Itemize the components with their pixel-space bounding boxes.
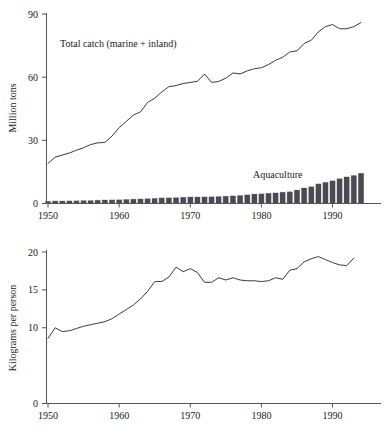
aquaculture-bar (344, 177, 350, 204)
aquaculture-bar (137, 199, 143, 204)
aquaculture-bar (301, 188, 307, 204)
x-tick-label: 1990 (323, 410, 343, 421)
annotation-total-catch: Total catch (marine + inland) (60, 38, 177, 50)
y-tick-label: 30 (28, 135, 38, 146)
top-y-axis-title: Million tons (7, 83, 18, 132)
aquaculture-bar (201, 197, 207, 204)
aquaculture-bar (251, 194, 257, 204)
annotation-aquaculture: Aquaculture (253, 169, 303, 180)
aquaculture-bar (294, 190, 300, 204)
y-tick-label: 90 (28, 9, 38, 20)
x-tick-label: 1950 (38, 410, 58, 421)
aquaculture-bar (280, 192, 286, 204)
aquaculture-bar (95, 200, 101, 204)
aquaculture-bar (116, 199, 122, 203)
aquaculture-bar (358, 173, 364, 204)
aquaculture-bar (130, 199, 136, 204)
x-tick-label: 1970 (180, 210, 200, 221)
aquaculture-bar (173, 197, 179, 203)
aquaculture-bar (258, 193, 264, 203)
aquaculture-bar (230, 195, 236, 203)
x-tick-label: 1950 (38, 210, 58, 221)
aquaculture-bar (209, 196, 215, 203)
aquaculture-bar (315, 183, 321, 203)
aquaculture-bar (237, 195, 243, 203)
x-tick-label: 1960 (109, 410, 129, 421)
aquaculture-bar (145, 198, 151, 203)
y-tick-label: 0 (33, 198, 38, 209)
aquaculture-bar (351, 175, 357, 203)
aquaculture-bar (180, 197, 186, 204)
aquaculture-bar (88, 200, 94, 203)
aquaculture-bar (152, 198, 158, 203)
aquaculture-bar (102, 200, 108, 204)
x-tick-label: 1960 (109, 210, 129, 221)
aquaculture-bar (273, 193, 279, 204)
aquaculture-bar (187, 197, 193, 204)
aquaculture-bar (81, 200, 87, 203)
x-tick-label: 1980 (251, 410, 271, 421)
aquaculture-bar (216, 196, 222, 203)
aquaculture-bar (166, 197, 172, 203)
aquaculture-bar (265, 193, 271, 204)
aquaculture-bar (322, 182, 328, 203)
aquaculture-bar (223, 196, 229, 204)
fisheries-figure: 0306090 19501960197019801990 Million ton… (0, 0, 387, 437)
y-tick-label: 20 (28, 247, 38, 258)
y-tick-label: 60 (28, 72, 38, 83)
aquaculture-bar (194, 197, 200, 204)
x-tick-label: 1980 (251, 210, 271, 221)
bottom-y-axis-title: Kilograms per person (7, 285, 18, 372)
aquaculture-bar (159, 198, 165, 204)
aquaculture-bar (244, 194, 250, 203)
x-tick-label: 1990 (323, 210, 343, 221)
aquaculture-bar (123, 199, 129, 203)
aquaculture-bar (287, 191, 293, 203)
aquaculture-bar (337, 178, 343, 203)
y-tick-label: 0 (33, 398, 38, 409)
aquaculture-bar (330, 180, 336, 203)
aquaculture-bar (109, 199, 115, 203)
y-tick-label: 10 (28, 322, 38, 333)
aquaculture-bar (308, 186, 314, 203)
x-tick-label: 1970 (180, 410, 200, 421)
y-tick-label: 15 (28, 284, 38, 295)
